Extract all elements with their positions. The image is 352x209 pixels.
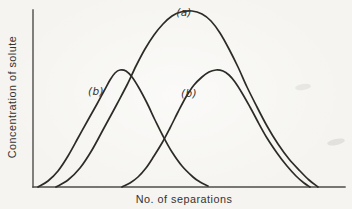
y-axis-label: Concentration of solute [6,36,18,159]
x-axis-label: No. of separations [136,193,233,205]
curve-right-peak [122,70,310,187]
curve-label: (a) [176,6,192,18]
separation-curves-figure: (a)(b)(b) Concentration of solute No. of… [0,0,352,209]
curves-layer [0,0,352,209]
curve-label: (b) [181,87,197,99]
curve-label: (b) [88,85,104,97]
